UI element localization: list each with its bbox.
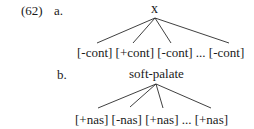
branch-a-2 xyxy=(133,18,155,43)
branch-b-1 xyxy=(98,84,156,108)
branch-a-1 xyxy=(97,18,155,43)
branch-b-4 xyxy=(156,84,211,108)
branch-a-3 xyxy=(155,18,171,43)
branch-a-4 xyxy=(155,18,229,43)
tree-branches xyxy=(0,0,254,129)
branch-b-2 xyxy=(130,84,156,107)
branch-b-3 xyxy=(156,84,163,108)
